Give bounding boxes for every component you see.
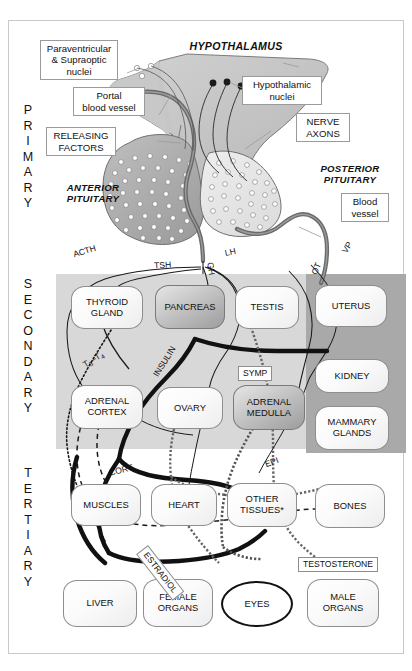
organ-label-line: ORGANS xyxy=(323,603,364,614)
hormone-testosterone: TESTOSTERONE xyxy=(298,557,378,572)
organ-mammary-glands[interactable]: MAMMARY GLANDS xyxy=(315,406,389,450)
level-letter: I xyxy=(15,528,41,544)
organ-eyes[interactable]: EYES xyxy=(221,581,293,627)
label-posterior-pituitary: POSTERIOR PITUITARY xyxy=(305,163,395,186)
label-hypothalamic-nuclei: Hypothalamic nuclei xyxy=(242,76,322,105)
level-letter: R xyxy=(15,119,41,135)
level-letter: P xyxy=(15,103,41,119)
organ-label-line: TESTIS xyxy=(251,302,284,313)
label-line: FACTORS xyxy=(50,142,112,153)
level-label-tertiary: T E R T I A R Y xyxy=(15,466,41,590)
level-letter: A xyxy=(15,370,41,386)
organ-label-line: ORGANS xyxy=(158,603,199,614)
label-line: PITUITARY xyxy=(51,193,135,204)
label-line: POSTERIOR xyxy=(305,163,395,174)
hormone-symp: SYMP xyxy=(238,366,272,381)
organ-label-line: OVARY xyxy=(174,403,206,414)
organ-label-line: THYROID xyxy=(86,297,128,308)
organ-bones[interactable]: BONES xyxy=(315,484,385,528)
label-line: vessel xyxy=(345,208,385,219)
level-letter: R xyxy=(15,497,41,513)
organ-label-line: GLANDS xyxy=(333,428,372,439)
organ-muscles[interactable]: MUSCLES xyxy=(71,484,141,526)
organ-label-line: CORTEX xyxy=(88,407,127,418)
label-anterior-pituitary: ANTERIOR PITUITARY xyxy=(51,182,135,205)
organ-label-line: BONES xyxy=(334,501,367,512)
diagram-root: P R I M A R Y S E C O N D A R Y T E R T … xyxy=(0,0,412,671)
level-letter: N xyxy=(15,339,41,355)
organ-male-organs[interactable]: MALE ORGANS xyxy=(307,579,379,627)
organ-label-line: HEART xyxy=(168,500,200,511)
label-line: Blood xyxy=(345,196,385,207)
label-portal-blood-vessel: Portal blood vessel xyxy=(73,87,145,116)
label-line: NERVE xyxy=(300,116,346,127)
organ-label-line: MEDULLA xyxy=(247,408,291,419)
level-letter: Y xyxy=(15,401,41,417)
organ-label-line: MUSCLES xyxy=(83,500,128,511)
label-line: ANTERIOR xyxy=(51,182,135,193)
level-letter: S xyxy=(15,277,41,293)
organ-label-line: EYES xyxy=(244,599,269,610)
label-nerve-axons: NERVE AXONS xyxy=(296,113,350,142)
level-letter: Y xyxy=(15,196,41,212)
organ-label-line: LIVER xyxy=(86,598,113,609)
level-letter: Y xyxy=(15,575,41,591)
organ-label-line: ADRENAL xyxy=(247,397,291,408)
label-line: PITUITARY xyxy=(305,174,395,185)
organ-liver[interactable]: LIVER xyxy=(63,580,137,627)
label-line: Paraventricular xyxy=(44,43,114,54)
organ-adrenal-medulla[interactable]: ADRENAL MEDULLA xyxy=(233,385,305,430)
organ-label-line: GLAND xyxy=(91,308,123,319)
organ-ovary[interactable]: OVARY xyxy=(157,387,223,429)
label-paraventricular-supraoptic-nuclei: Paraventricular & Supraoptic nuclei xyxy=(40,40,118,80)
label-line: nuclei xyxy=(44,66,114,77)
level-letter: M xyxy=(15,150,41,166)
level-letter: I xyxy=(15,134,41,150)
organ-testis[interactable]: TESTIS xyxy=(235,286,299,329)
organ-kidney[interactable]: KIDNEY xyxy=(315,359,389,393)
level-letter: R xyxy=(15,181,41,197)
label-line: RELEASING xyxy=(50,130,112,141)
level-letter: T xyxy=(15,466,41,482)
organ-label-line: PANCREAS xyxy=(165,302,216,313)
diagram-page: P R I M A R Y S E C O N D A R Y T E R T … xyxy=(8,20,404,654)
label-line: Portal xyxy=(77,90,141,101)
organ-label-line: KIDNEY xyxy=(335,371,370,382)
label-blood-vessel: Blood vessel xyxy=(341,193,389,222)
level-letter: E xyxy=(15,482,41,498)
hormone-tsh: TSH xyxy=(154,260,172,271)
label-line: & Supraoptic xyxy=(44,54,114,65)
organ-other-tissues[interactable]: OTHER TISSUES* xyxy=(227,483,297,527)
level-letter: R xyxy=(15,559,41,575)
organ-pancreas[interactable]: PANCREAS xyxy=(155,285,225,329)
level-label-secondary: S E C O N D A R Y xyxy=(15,277,41,417)
level-letter: C xyxy=(15,308,41,324)
organ-label-line: TISSUES* xyxy=(240,505,284,516)
level-letter: D xyxy=(15,355,41,371)
hormone-gh: GH xyxy=(205,262,216,276)
label-line: AXONS xyxy=(300,128,346,139)
level-letter: R xyxy=(15,386,41,402)
label-line: blood vessel xyxy=(77,102,141,113)
label-line: nuclei xyxy=(246,91,318,102)
level-letter: E xyxy=(15,293,41,309)
level-letter: T xyxy=(15,513,41,529)
organ-adrenal-cortex[interactable]: ADRENAL CORTEX xyxy=(71,385,143,429)
label-line: Hypothalamic xyxy=(246,79,318,90)
label-hypothalamus: HYPOTHALAMUS xyxy=(181,41,291,52)
level-letter: O xyxy=(15,324,41,340)
label-releasing-factors: RELEASING FACTORS xyxy=(46,127,116,156)
organ-thyroid-gland[interactable]: THYROID GLAND xyxy=(71,286,143,329)
organ-uterus[interactable]: UTERUS xyxy=(315,285,387,327)
organ-label-line: UTERUS xyxy=(332,301,371,312)
level-letter: A xyxy=(15,165,41,181)
level-label-primary: P R I M A R Y xyxy=(15,103,41,212)
level-letter: A xyxy=(15,544,41,560)
organ-heart[interactable]: HEART xyxy=(151,484,217,526)
